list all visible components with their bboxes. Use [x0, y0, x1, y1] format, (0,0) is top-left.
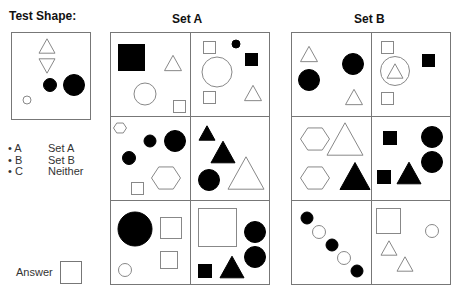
filled-square-shape: [246, 54, 258, 66]
option-c: • C Neither: [8, 166, 83, 178]
answer-label: Answer: [16, 266, 53, 278]
outline-triangle-up-shape: [245, 85, 262, 100]
outline-square-shape: [174, 101, 186, 113]
option-a-key: • A: [8, 143, 48, 155]
filled-circle-shape: [351, 265, 363, 277]
outline-square-shape: [204, 42, 216, 54]
outline-hexagon-shape: [301, 167, 330, 189]
filled-circle-shape: [64, 75, 85, 96]
filled-triangle-up-shape: [199, 126, 215, 140]
filled-square-shape: [119, 45, 145, 71]
outline-triangle-up-shape: [301, 46, 318, 61]
filled-circle-shape: [343, 54, 364, 75]
filled-circle-shape: [301, 212, 313, 224]
outline-triangle-up-shape: [397, 257, 413, 271]
filled-circle-shape: [165, 131, 186, 152]
filled-circle-shape: [245, 222, 266, 243]
option-c-key: • C: [8, 166, 48, 178]
filled-square-shape: [199, 265, 212, 278]
set-a-title: Set A: [172, 12, 202, 26]
filled-circle-shape: [422, 127, 443, 148]
outline-square-shape: [199, 209, 237, 247]
option-a: • A Set A: [8, 143, 83, 155]
outline-circle-shape: [338, 252, 351, 265]
outline-square-shape: [132, 183, 144, 195]
filled-triangle-up-shape: [220, 256, 244, 278]
filled-circle-shape: [422, 152, 443, 173]
outline-triangle-up-shape: [387, 64, 403, 78]
outline-square-shape: [382, 93, 394, 105]
filled-square-shape: [378, 171, 391, 184]
filled-circle-shape: [326, 239, 338, 251]
outline-triangle-up-shape: [381, 241, 397, 255]
outline-circle-shape: [119, 264, 132, 277]
outline-square-shape: [377, 209, 401, 234]
set-b-title: Set B: [354, 12, 385, 26]
outline-triangle-up-shape: [165, 55, 182, 70]
outline-square-shape: [161, 218, 182, 239]
filled-square-shape: [423, 55, 435, 67]
outline-circle-shape: [202, 57, 232, 87]
filled-circle-shape: [44, 79, 57, 92]
option-c-label: Neither: [48, 166, 83, 178]
filled-circle-shape: [118, 212, 152, 246]
test-shape-title: Test Shape:: [9, 9, 76, 23]
outline-circle-shape: [23, 96, 31, 104]
filled-circle-shape: [123, 152, 136, 165]
outline-triangle-down-shape: [39, 59, 55, 73]
filled-triangle-up-shape: [397, 162, 421, 184]
filled-triangle-up-shape: [340, 163, 370, 190]
filled-square-shape: [384, 132, 397, 145]
outline-circle-shape: [426, 225, 439, 238]
filled-circle-shape: [199, 170, 220, 191]
outline-hexagon-shape: [301, 128, 330, 150]
outline-square-shape: [161, 252, 178, 269]
filled-triangle-up-shape: [211, 141, 235, 163]
outline-circle-shape: [313, 226, 326, 239]
option-a-label: Set A: [48, 143, 74, 155]
filled-circle-shape: [299, 70, 320, 91]
outline-triangle-up-shape: [39, 39, 55, 53]
filled-circle-shape: [232, 40, 240, 48]
answer-options-legend: • A Set A • B Set B • C Neither: [8, 143, 83, 178]
outline-circle-shape: [381, 57, 410, 86]
outline-circle-shape: [134, 83, 156, 105]
outline-hexagon-shape: [152, 167, 181, 189]
filled-circle-shape: [245, 247, 266, 268]
outline-hexagon-shape: [114, 123, 127, 133]
filled-circle-shape: [144, 135, 156, 147]
outline-square-shape: [382, 42, 394, 54]
outline-triangle-up-shape: [346, 89, 363, 104]
outline-triangle-up-shape: [327, 123, 363, 155]
answer-input-box[interactable]: [60, 261, 82, 284]
outline-square-shape: [204, 92, 216, 104]
